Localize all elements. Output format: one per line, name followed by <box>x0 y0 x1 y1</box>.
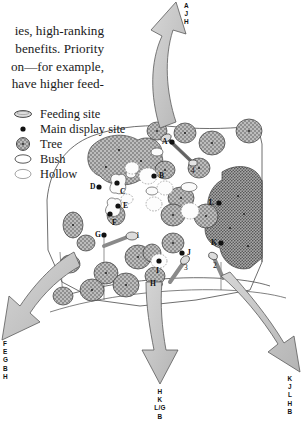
bush-outline-oval-icon <box>10 152 36 166</box>
arrow-br-label-3: L <box>283 391 297 399</box>
legend-item-tree: Tree <box>10 136 140 151</box>
arrow-bl-label-3: G <box>3 356 8 364</box>
arrow-top-label-3: H <box>184 18 189 26</box>
map-number-4: 4 <box>191 167 195 175</box>
hollow <box>157 181 173 195</box>
map-label-F: F <box>112 219 117 227</box>
map-label-K: K <box>211 239 217 247</box>
bush <box>151 148 163 156</box>
bush <box>181 183 197 192</box>
legend-label-hollow: Hollow <box>40 167 77 181</box>
body-text-line-1: ies, high-ranking <box>0 22 104 40</box>
map-label-H: H <box>150 280 156 288</box>
arrow-br-label-4: H <box>283 400 297 408</box>
arrow-bc-label-2: K <box>148 396 172 404</box>
bush <box>146 187 158 195</box>
arrow-bl-label-1: F <box>3 340 8 348</box>
legend-label-tree: Tree <box>40 137 62 151</box>
arrow-bc-label-3: L/G <box>148 404 172 412</box>
display-site-dot-A <box>169 139 174 144</box>
display-site-dot-J <box>179 250 184 255</box>
map-label-J: J <box>187 249 191 257</box>
body-text-line-3: on—for example, <box>0 58 104 76</box>
arrow-bl-label-5: H <box>3 373 8 381</box>
arrow-br-label-5: B <box>283 408 297 416</box>
arrow-br-label-1: K <box>283 375 297 383</box>
arrow-bc-label-1: H <box>148 388 172 396</box>
legend-item-feeding-site: Feeding site <box>10 106 140 121</box>
display-site-dot-B <box>151 173 156 178</box>
tree <box>77 235 95 251</box>
legend-label-feeding-site: Feeding site <box>40 107 100 121</box>
arrow-top-label-2: J <box>184 10 189 18</box>
arrow-bl-label-2: E <box>3 348 8 356</box>
map-legend: Feeding site Main display site Tree <box>10 106 140 181</box>
map-label-G: G <box>95 231 101 239</box>
feeding-site <box>208 251 219 261</box>
tree <box>53 287 73 305</box>
feeding-site-oval-icon <box>10 107 36 121</box>
display-site-dot-K <box>218 240 223 245</box>
map-number-2: 2 <box>213 262 217 270</box>
map-number-1: 1 <box>136 232 140 240</box>
display-site-dot-G <box>101 232 106 237</box>
body-text-line-4: have higher feed- <box>0 75 104 93</box>
main-display-site-dot-icon <box>10 122 36 136</box>
arrow-label-bottom-left: F E G B H <box>3 340 8 381</box>
hollow <box>146 197 162 211</box>
hollow <box>181 203 199 219</box>
display-site-dot-F <box>107 211 112 216</box>
display-site-dot-D <box>96 184 101 189</box>
arrow-bc-label-4: B <box>148 413 172 421</box>
legend-label-main-display-site: Main display site <box>40 122 125 136</box>
tree-stippled-circle-icon <box>10 137 36 151</box>
arrow-bottom-center <box>142 282 178 384</box>
legend-item-bush: Bush <box>10 151 140 166</box>
display-site-dot-L <box>216 200 221 205</box>
map-label-C: C <box>120 188 125 196</box>
legend-item-hollow: Hollow <box>10 166 140 181</box>
hollow-outline-oval-icon <box>10 167 36 181</box>
arrow-label-bottom-center: H K L/G B <box>148 388 172 421</box>
arrow-bl-label-4: B <box>3 365 8 373</box>
legend-item-main-display-site: Main display site <box>10 121 140 136</box>
map-label-A: A <box>162 138 167 146</box>
map-label-E: E <box>123 202 128 210</box>
arrow-label-bottom-right: K J L H B <box>283 375 297 416</box>
arrow-br-label-2: J <box>283 383 297 391</box>
legend-label-bush: Bush <box>40 152 65 166</box>
map-label-B: B <box>159 172 164 180</box>
map-number-3: 3 <box>184 264 188 272</box>
display-site-dot-I <box>156 258 161 263</box>
arrow-label-top: A J H <box>184 2 189 27</box>
display-site-dot-E <box>115 203 120 208</box>
body-text-line-2: benefits. Priority <box>0 40 104 58</box>
body-text-block: ies, high-ranking benefits. Priority on—… <box>0 22 104 93</box>
arrow-top <box>151 2 186 128</box>
map-label-L: L <box>209 199 214 207</box>
arrow-bottom-right <box>221 272 300 372</box>
map-label-I: I <box>156 267 159 275</box>
display-site-dot-C <box>114 180 119 185</box>
map-label-D: D <box>90 183 95 191</box>
arrow-top-label-1: A <box>184 2 189 10</box>
